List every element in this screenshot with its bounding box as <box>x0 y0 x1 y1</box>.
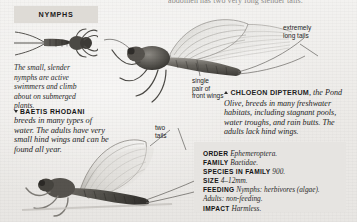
mayfly-nymph-photo <box>14 26 98 60</box>
fact-feeding-sub: Adults: non-feeding. <box>203 194 338 203</box>
fact-key: FEEDING <box>203 186 234 193</box>
baetis-species-heading: BAETIS RHODANI <box>14 108 110 115</box>
label-two-tails: two tails <box>155 124 167 139</box>
fact-value: 900. <box>272 167 285 176</box>
running-text-top: abdomen has two very long slender tails. <box>168 0 357 6</box>
fact-row: FEEDING Nymphs: herbivores (algae). <box>203 185 338 194</box>
fact-value: Nymphs: herbivores (algae). <box>236 185 319 194</box>
baetis-species-name: BAETIS RHODANI <box>20 108 85 115</box>
chloeon-species-name: CHLOEON DIPTERUM <box>231 89 309 97</box>
fact-value: Ephemeroptera. <box>230 149 277 158</box>
fact-value: Baetidae. <box>230 158 258 167</box>
fact-value: Harmless. <box>231 204 261 213</box>
nymphs-panel-caption: The small, slender nymphs are active swi… <box>14 63 98 111</box>
chloeon-caption: CHLOEON DIPTERUM, the Pond Olive, breeds… <box>224 88 352 137</box>
label-single-pair-of-front-wings: single pair of front wings <box>192 77 223 100</box>
fact-value: 4–12mm. <box>221 176 248 185</box>
fact-row: FAMILY Baetidae. <box>203 158 338 167</box>
fact-key: IMPACT <box>203 205 230 212</box>
triangle-down-icon <box>14 110 18 113</box>
label-extremely-long-tails: extremely long tails <box>283 24 311 39</box>
fact-key: FAMILY <box>203 159 228 166</box>
fact-row: ORDER Ephemeroptera. <box>203 149 338 158</box>
baetis-caption-body: breeds in many types of water. The adult… <box>14 116 110 154</box>
chloeon-caption-body: CHLOEON DIPTERUM, the Pond Olive, breeds… <box>224 88 352 137</box>
fact-row: IMPACT Harmless. <box>203 204 338 213</box>
nymphs-panel: NYMPHS <box>14 6 98 111</box>
triangle-up-icon <box>224 91 228 94</box>
fact-row: SIZE 4–12mm. <box>203 176 338 185</box>
nymphs-panel-header: NYMPHS <box>14 6 98 23</box>
fact-row: SPECIES IN FAMILY 900. <box>203 167 338 176</box>
fact-key: SPECIES IN FAMILY <box>203 168 271 175</box>
fact-box: ORDER Ephemeroptera. FAMILY Baetidae. SP… <box>194 142 346 212</box>
baetis-caption: BAETIS RHODANI breeds in many types of w… <box>14 108 110 154</box>
fact-key: ORDER <box>203 150 228 157</box>
fact-key: SIZE <box>203 177 219 184</box>
